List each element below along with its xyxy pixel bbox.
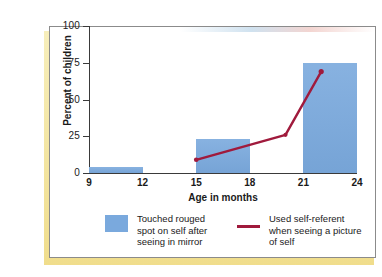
legend-item-bar: Touched rouged spot on self after seeing…: [105, 213, 207, 248]
legend-item-line: Used self-referent when seeing a picture…: [237, 213, 361, 248]
legend-label-bar: Touched rouged spot on self after seeing…: [137, 213, 207, 248]
chart-legend: Touched rouged spot on self after seeing…: [89, 213, 369, 257]
line-point-22: [319, 69, 324, 74]
line-point-15: [194, 158, 199, 163]
legend-line-swatch-icon: [237, 225, 260, 228]
legend-bar-swatch-icon: [105, 215, 128, 232]
line-point-20: [283, 133, 287, 137]
figure-root: 100 75 50 25 0 Percent of children 9 12 …: [0, 0, 382, 277]
figure-card: 100 75 50 25 0 Percent of children 9 12 …: [49, 26, 376, 258]
legend-label-line: Used self-referent when seeing a picture…: [269, 213, 361, 248]
